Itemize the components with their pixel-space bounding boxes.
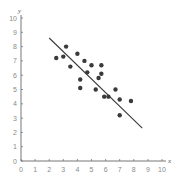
tick-labels: 012345678910012345678910 (9, 15, 166, 174)
x-tick-label: 0 (19, 166, 23, 173)
trend-line (49, 38, 142, 128)
data-point (94, 87, 98, 91)
data-point (78, 77, 82, 81)
x-axis-title: x (167, 157, 172, 165)
data-point (64, 44, 68, 48)
x-tick-label: 1 (33, 166, 37, 173)
y-tick-label: 8 (13, 43, 17, 50)
axes (21, 15, 166, 161)
data-point (129, 99, 133, 103)
data-point (89, 63, 93, 67)
y-tick-label: 0 (13, 158, 17, 165)
x-tick-label: 8 (132, 166, 136, 173)
y-tick-label: 2 (13, 129, 17, 136)
x-tick-label: 7 (118, 166, 122, 173)
data-point (78, 86, 82, 90)
data-point (99, 72, 103, 76)
data-point (75, 52, 79, 56)
y-axis-title: y (17, 7, 22, 15)
data-point (102, 94, 106, 98)
x-tick-label: 4 (75, 166, 79, 173)
data-point (106, 94, 110, 98)
data-point (82, 59, 86, 63)
x-tick-label: 10 (158, 166, 166, 173)
data-point (118, 97, 122, 101)
regression-line (49, 38, 142, 128)
x-tick-label: 6 (104, 166, 108, 173)
y-tick-label: 9 (13, 29, 17, 36)
y-tick-label: 5 (13, 86, 17, 93)
x-tick-label: 2 (47, 166, 51, 173)
y-tick-label: 3 (13, 115, 17, 122)
data-point (99, 63, 103, 67)
x-tick-label: 9 (146, 166, 150, 173)
data-point (96, 76, 100, 80)
scatter-chart: 012345678910012345678910 x y (0, 0, 185, 187)
data-point (118, 113, 122, 117)
y-tick-label: 6 (13, 72, 17, 79)
y-tick-label: 10 (9, 15, 17, 22)
data-point (113, 87, 117, 91)
y-tick-label: 7 (13, 57, 17, 64)
y-tick-label: 1 (13, 143, 17, 150)
data-point (61, 54, 65, 58)
data-point (68, 64, 72, 68)
x-tick-label: 5 (90, 166, 94, 173)
x-tick-label: 3 (61, 166, 65, 173)
data-point (85, 70, 89, 74)
y-tick-label: 4 (13, 100, 17, 107)
data-point (54, 56, 58, 60)
